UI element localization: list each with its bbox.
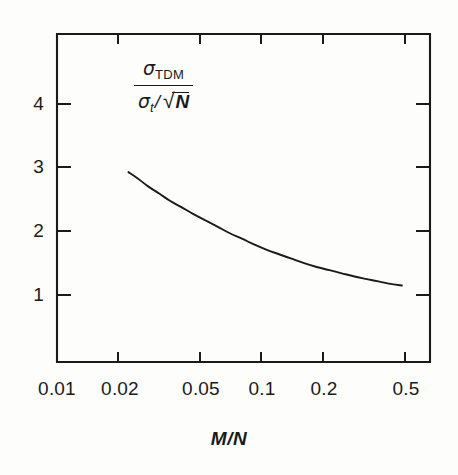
xtick-label-0.5: 0.5 [392, 378, 419, 400]
xtick-label-0.1: 0.1 [248, 378, 275, 400]
fraction-numerator: σTDM [134, 58, 193, 84]
figure-container: 4 3 2 1 0.01 0.02 0.05 0.1 0.2 0.5 σTDM … [0, 0, 458, 475]
ytick-label-1: 1 [10, 284, 44, 306]
xtick-label-0.02: 0.02 [101, 378, 139, 400]
plot-frame [57, 34, 430, 362]
square-root-group: √N [161, 90, 189, 112]
ytick-label-4: 4 [10, 93, 44, 115]
plot-svg [0, 0, 458, 475]
fraction-denominator: σt/√N [134, 88, 193, 115]
division-slash: / [154, 91, 161, 112]
xaxis-ticks-bottom [57, 352, 405, 362]
radicand-n: N [174, 91, 189, 112]
yaxis-ticks-right [416, 104, 430, 295]
data-curve-sigma-ratio [128, 172, 401, 285]
ytick-label-3: 3 [10, 156, 44, 178]
fraction-bar [134, 85, 193, 86]
sigma-symbol-numerator: σ [143, 57, 155, 79]
yaxis-label-fraction: σTDM σt/√N [134, 58, 193, 116]
yaxis-ticks-left [57, 104, 71, 295]
xaxis-title: M/N [0, 428, 458, 450]
sigma-subscript-tdm: TDM [155, 67, 184, 82]
ytick-label-2: 2 [10, 220, 44, 242]
xtick-label-0.05: 0.05 [182, 378, 220, 400]
radical-overbar [172, 92, 189, 93]
xtick-label-0.2: 0.2 [310, 378, 337, 400]
sigma-symbol-denominator: σ [138, 90, 150, 112]
xtick-label-0.01: 0.01 [38, 378, 76, 400]
xaxis-ticks-top [118, 34, 405, 44]
